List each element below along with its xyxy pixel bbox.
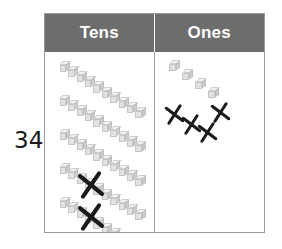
cross-out-x-icon	[221, 112, 222, 113]
tens-rod	[59, 197, 60, 198]
cube-front-face	[77, 143, 83, 150]
rod-cube	[135, 175, 147, 187]
ones-cube	[169, 60, 181, 72]
tens-rod	[59, 61, 60, 62]
cube-front-face	[102, 125, 108, 132]
cube-front-face	[102, 159, 108, 166]
cube-front-face	[110, 96, 116, 103]
cube-side-face	[215, 88, 219, 98]
place-value-chart: Tens Ones	[44, 13, 265, 233]
tens-rod	[59, 95, 60, 96]
worksheet-canvas: 34 Tens Ones	[0, 0, 282, 249]
cube-front-face	[127, 174, 133, 181]
chart-body-row	[45, 52, 264, 232]
cube-front-face	[93, 85, 99, 92]
cube-front-face	[102, 91, 108, 98]
cross-out-x-icon	[192, 124, 193, 125]
cube-front-face	[85, 80, 91, 87]
cube-front-face	[119, 169, 125, 176]
cube-front-face	[195, 82, 201, 89]
cube-front-face	[68, 172, 74, 179]
ones-cube	[208, 87, 220, 99]
chart-cell-ones	[155, 52, 265, 232]
cube-front-face	[60, 133, 66, 140]
cube-side-face	[176, 61, 180, 71]
rod-cube	[135, 209, 147, 221]
cube-front-face	[85, 114, 91, 121]
place-value-number-label: 34	[14, 129, 43, 152]
cube-front-face	[60, 99, 66, 106]
cube-front-face	[208, 91, 214, 98]
tens-rod	[59, 163, 60, 164]
cube-front-face	[110, 130, 116, 137]
chart-cell-tens	[45, 52, 155, 232]
cube-front-face	[119, 135, 125, 142]
cube-front-face	[135, 213, 141, 220]
cube-side-face	[142, 142, 146, 152]
cube-front-face	[119, 203, 125, 210]
cross-out-x-icon	[175, 114, 176, 115]
cross-out-x-icon	[208, 132, 209, 133]
cube-front-face	[60, 201, 66, 208]
cube-front-face	[135, 179, 141, 186]
ones-cube	[195, 78, 207, 90]
cube-side-face	[142, 108, 146, 118]
rod-cube	[135, 107, 147, 119]
cube-front-face	[93, 153, 99, 160]
cube-front-face	[110, 198, 116, 205]
cube-front-face	[60, 167, 66, 174]
cube-front-face	[68, 206, 74, 213]
cube-side-face	[142, 176, 146, 186]
column-header-ones: Ones	[155, 14, 265, 52]
cube-front-face	[135, 145, 141, 152]
cube-front-face	[127, 106, 133, 113]
cube-front-face	[85, 148, 91, 155]
cube-front-face	[93, 119, 99, 126]
cube-side-face	[189, 70, 193, 80]
rod-cube	[109, 228, 121, 232]
rod-cube	[135, 141, 147, 153]
cube-front-face	[77, 109, 83, 116]
cube-front-face	[68, 70, 74, 77]
cube-front-face	[68, 104, 74, 111]
cube-front-face	[68, 138, 74, 145]
cube-side-face	[142, 210, 146, 220]
cube-side-face	[202, 79, 206, 89]
cube-front-face	[135, 111, 141, 118]
cube-front-face	[77, 75, 83, 82]
tens-rod	[59, 129, 60, 130]
cross-out-x-icon	[91, 185, 92, 186]
cube-front-face	[110, 164, 116, 171]
cube-front-face	[127, 208, 133, 215]
cube-front-face	[60, 65, 66, 72]
cube-front-face	[182, 73, 188, 80]
column-header-tens: Tens	[45, 14, 155, 52]
cube-front-face	[127, 140, 133, 147]
cross-out-x-icon	[91, 217, 92, 218]
cube-front-face	[119, 101, 125, 108]
ones-cube	[182, 69, 194, 81]
cube-front-face	[169, 64, 175, 71]
chart-header-row: Tens Ones	[45, 14, 264, 52]
